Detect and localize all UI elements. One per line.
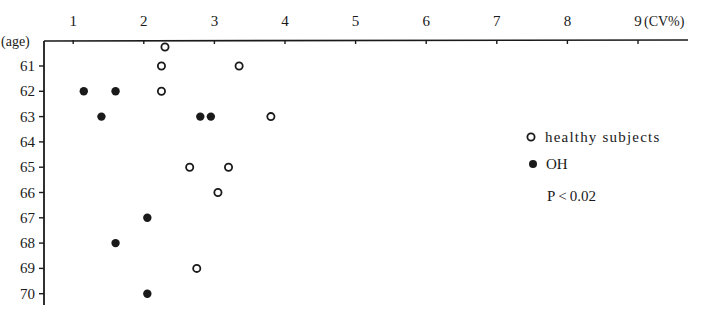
data-point-healthy [161,43,168,50]
x-tick-label: 6 [422,13,430,29]
data-point-oh [143,214,151,222]
x-tick-label: 4 [281,13,289,29]
data-point-healthy [158,62,165,69]
legend: healthy subjects OH P < 0.02 [527,129,660,204]
data-point-healthy [225,164,232,171]
y-tick-label: 66 [20,185,36,201]
data-point-healthy [236,62,243,69]
x-tick-label: 1 [69,13,77,29]
y-tick-group: 61626364656667686970 [20,58,44,302]
data-point-oh [196,112,204,120]
y-tick-label: 67 [20,210,36,226]
data-point-oh [207,112,215,120]
x-tick-label: 8 [564,13,572,29]
y-tick-label: 69 [20,260,35,276]
data-point-healthy [186,164,193,171]
filled-circle-icon [529,160,537,168]
x-tick-label: 7 [493,13,501,29]
p-value-annotation: P < 0.02 [547,188,596,204]
data-point-healthy [158,88,165,95]
x-tick-label: 2 [140,13,148,29]
x-tick-label: 3 [211,13,219,29]
x-tick-group: 123456789 [69,13,641,44]
data-point-healthy [267,113,274,120]
x-axis-unit-label: (CV%) [644,14,685,30]
data-point-oh [143,290,151,298]
open-circle-icon [527,133,534,140]
data-point-oh [111,239,119,247]
x-tick-label: 5 [352,13,360,29]
data-point-oh [111,87,119,95]
y-tick-label: 65 [20,159,35,175]
x-tick-label: 9 [634,13,642,29]
y-tick-label: 64 [20,134,36,150]
y-tick-label: 62 [20,83,35,99]
x-axis [44,40,688,41]
data-point-oh [97,112,105,120]
y-tick-label: 61 [20,58,35,74]
data-points [80,43,275,298]
legend-healthy-label: healthy subjects [545,129,660,145]
data-point-healthy [214,189,221,196]
scatter-chart: 123456789 61626364656667686970 (CV%) (ag… [0,0,714,310]
data-point-oh [80,87,88,95]
data-point-healthy [193,265,200,272]
legend-oh-label: OH [546,156,568,172]
y-tick-label: 70 [20,286,35,302]
y-axis-unit-label: (age) [1,34,30,50]
y-tick-label: 68 [20,235,35,251]
y-tick-label: 63 [20,109,35,125]
